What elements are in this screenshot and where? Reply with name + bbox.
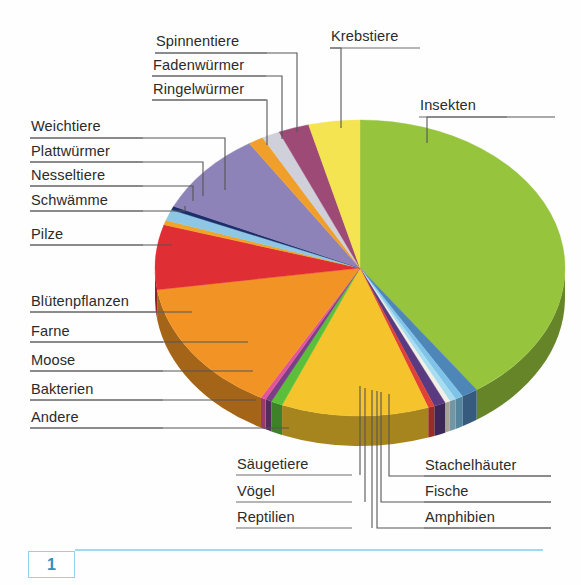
label-amphibien: Amphibien xyxy=(425,510,495,525)
label-reptilien: Reptilien xyxy=(237,510,295,525)
label-andere: Andere xyxy=(31,410,79,425)
label-saeugetiere: Säugetiere xyxy=(237,457,309,472)
label-plattwuermer: Plattwürmer xyxy=(31,144,110,159)
label-insekten: Insekten xyxy=(420,98,476,113)
label-ringelwuermer: Ringelwürmer xyxy=(153,82,244,97)
label-moose: Moose xyxy=(31,353,75,368)
label-bakterien: Bakterien xyxy=(31,382,94,397)
label-krebstiere: Krebstiere xyxy=(331,29,399,44)
label-weichtiere: Weichtiere xyxy=(31,119,101,134)
label-fadenwuermer: Fadenwürmer xyxy=(153,58,244,73)
leader-krebstiere xyxy=(330,48,341,128)
label-farne: Farne xyxy=(31,324,70,339)
figure-number-box: 1 xyxy=(28,551,75,578)
figure-rule xyxy=(75,549,543,551)
figure-page: Spinnentiere Fadenwürmer Ringelwürmer We… xyxy=(0,0,581,585)
label-nesseltiere: Nesseltiere xyxy=(31,168,105,183)
pie-chart-figure: Spinnentiere Fadenwürmer Ringelwürmer We… xyxy=(0,0,581,585)
label-pilze: Pilze xyxy=(31,227,63,242)
label-bluetenpflanzen: Blütenpflanzen xyxy=(31,294,129,309)
label-fische: Fische xyxy=(425,484,469,499)
label-voegel: Vögel xyxy=(237,484,275,499)
label-stachelhaeuter: Stachelhäuter xyxy=(425,458,516,473)
label-schwaemme: Schwämme xyxy=(31,193,108,208)
label-spinnentiere: Spinnentiere xyxy=(156,34,239,49)
leader-insekten xyxy=(427,117,555,143)
